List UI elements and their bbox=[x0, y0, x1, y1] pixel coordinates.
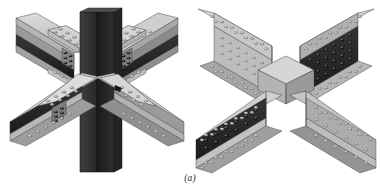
right-assembly bbox=[196, 9, 376, 173]
left-assembly bbox=[10, 8, 184, 172]
figure-container: (a) bbox=[0, 0, 380, 185]
connection-diagram bbox=[0, 0, 380, 185]
figure-caption: (a) bbox=[0, 173, 380, 183]
beam-southeast-arm bbox=[290, 91, 376, 173]
beam-southwest-arm bbox=[196, 91, 282, 173]
